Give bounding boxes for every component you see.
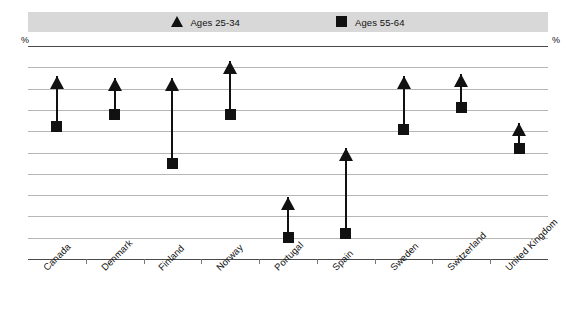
marker-square-ages-55-64	[109, 109, 120, 120]
gridline-80	[28, 89, 548, 90]
marker-triangle-ages-25-34	[165, 78, 179, 91]
x-axis-labels: CanadaDenmarkFinlandNorwayPortugalSpainS…	[28, 259, 548, 323]
marker-triangle-ages-25-34	[108, 78, 122, 91]
gridline-30	[28, 195, 548, 196]
marker-triangle-ages-25-34	[454, 74, 468, 87]
marker-square-ages-55-64	[340, 228, 351, 239]
marker-triangle-ages-25-34	[281, 197, 295, 210]
marker-triangle-ages-25-34	[512, 123, 526, 136]
marker-triangle-ages-25-34	[50, 76, 64, 89]
marker-square-ages-55-64	[167, 158, 178, 169]
legend-label-ages-25-34: Ages 25-34	[190, 17, 240, 28]
chart-container: Ages 25-34 Ages 55-64 % % 10010090908080…	[0, 0, 576, 323]
marker-triangle-ages-25-34	[223, 61, 237, 74]
gridline-40	[28, 174, 548, 175]
marker-triangle-ages-25-34	[397, 76, 411, 89]
marker-square-ages-55-64	[225, 109, 236, 120]
y-axis-unit-left: %	[21, 36, 29, 45]
gridline-70	[28, 110, 548, 111]
marker-square-ages-55-64	[398, 124, 409, 135]
gridline-50	[28, 153, 548, 154]
square-icon	[336, 16, 348, 28]
legend-label-ages-55-64: Ages 55-64	[355, 17, 405, 28]
gridline-100	[28, 46, 548, 47]
marker-triangle-ages-25-34	[339, 148, 353, 161]
marker-square-ages-55-64	[514, 143, 525, 154]
marker-square-ages-55-64	[283, 232, 294, 243]
marker-square-ages-55-64	[456, 102, 467, 113]
chart-legend: Ages 25-34 Ages 55-64	[28, 12, 548, 32]
y-axis-unit-right: %	[552, 36, 560, 45]
legend-item-ages-25-34: Ages 25-34	[171, 16, 240, 28]
legend-item-ages-55-64: Ages 55-64	[336, 16, 405, 28]
gridline-60	[28, 131, 548, 132]
triangle-icon	[171, 16, 183, 28]
gridline-90	[28, 67, 548, 68]
marker-square-ages-55-64	[51, 121, 62, 132]
plot-area: 1001009090808070706060505040403030202010…	[28, 46, 548, 259]
